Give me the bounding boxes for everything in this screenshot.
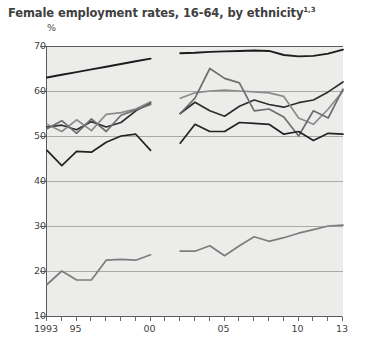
chart-title-footnote: 1,3: [303, 6, 315, 14]
x-tick-label-05: 05: [218, 323, 230, 334]
series-lines: [47, 46, 343, 316]
series-line-0-segment-0: [47, 59, 151, 78]
x-tick-label-00: 00: [144, 323, 156, 334]
y-axis-unit-label: %: [47, 22, 56, 33]
series-line-1-segment-1: [180, 82, 343, 116]
x-tick-label-1993: 1993: [34, 323, 58, 334]
x-tick-label-10: 10: [292, 323, 304, 334]
series-line-5-segment-0: [47, 255, 151, 285]
series-line-2-segment-0: [47, 102, 151, 132]
plot-area: [46, 46, 343, 316]
series-line-4-segment-0: [47, 134, 151, 166]
series-line-4-segment-1: [180, 123, 343, 144]
chart-title: Female employment rates, 16-64, by ethni…: [8, 6, 315, 20]
series-line-5-segment-1: [180, 225, 343, 256]
series-line-0-segment-1: [180, 50, 343, 57]
x-tick-label-13: 13: [336, 323, 348, 334]
chart-title-text: Female employment rates, 16-64, by ethni…: [8, 6, 303, 20]
x-tick-label-95: 95: [70, 323, 82, 334]
x-axis-line: [46, 316, 342, 317]
